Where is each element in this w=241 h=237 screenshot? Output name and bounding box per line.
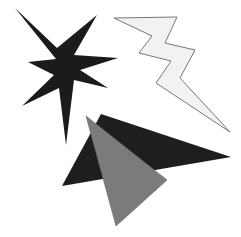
shapes-canvas [0, 0, 241, 237]
